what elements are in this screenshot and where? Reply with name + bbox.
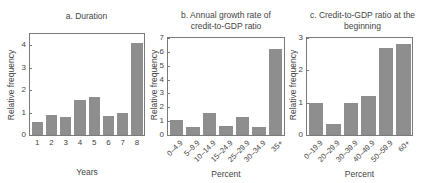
y-tick-label: 3 [293, 34, 303, 42]
y-tick-mark [307, 135, 309, 136]
bar [379, 48, 394, 135]
x-axis-label: Percent [306, 169, 413, 179]
y-tick-mark [307, 70, 309, 71]
bar [344, 103, 359, 135]
chart-title-line-2: beginning [300, 21, 425, 31]
bar [326, 124, 341, 135]
chart-panel-initial-ratio: c. Credit-to-GDP ratio at the beginning … [0, 0, 425, 183]
bar [361, 96, 376, 135]
y-axis-label: Relative frequency [288, 40, 298, 130]
bar [309, 103, 324, 135]
chart-title-line-1: c. Credit-to-GDP ratio at the [300, 10, 425, 20]
y-tick-label: 0 [293, 131, 303, 139]
y-tick-mark [307, 103, 309, 104]
y-tick-mark [307, 38, 309, 39]
y-tick-label: 1 [293, 99, 303, 107]
plot-area [306, 37, 413, 136]
bar [396, 44, 411, 135]
y-tick-label: 2 [293, 66, 303, 74]
